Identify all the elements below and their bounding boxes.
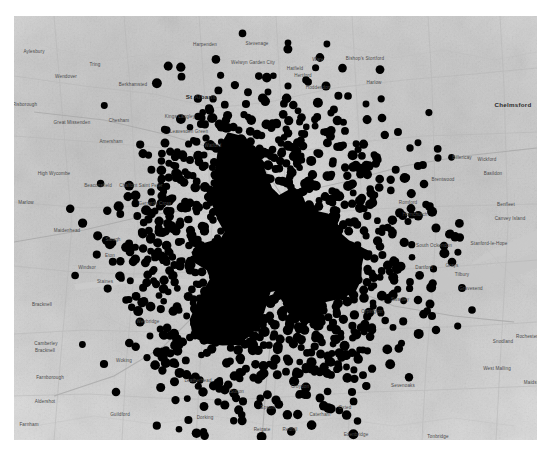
map-label-oxted: Oxted [339,405,352,410]
map-label-maidenhead: Maidenhead [54,228,81,233]
map-label-tonbridge: Tonbridge [427,434,448,439]
map-label-kings-langley: Kings Langley [165,114,195,119]
map-label-maidstone: Maidstone [524,380,537,385]
map-label-windsor: Windsor [78,265,96,270]
map-label-caterham: Caterham [309,412,330,417]
map-label-woking: Woking [116,358,132,363]
map-label-camberley: Camberley [34,341,57,346]
map-label-eton: Eton [105,253,115,258]
map-label-watford: Watford [205,143,222,148]
map-label-romford: Romford [399,200,417,205]
map-label-gerrards-cross: Gerrards Cross [138,201,171,206]
map-label-harlow: Harlow [366,80,381,85]
map-label-redhill: Redhill [283,427,298,432]
map-label-welwyn-garden-city: Welwyn Garden City [231,60,275,65]
map-label-chalfont-saint-peter: Chalfont Saint Peter [119,183,163,188]
map-label-edenbridge: Edenbridge [344,432,369,437]
map-label-hertford: Hertford [294,73,312,78]
map-label-slough: Slough [105,237,120,242]
map-label-leatherhead: Leatherhead [184,378,211,383]
map-label-tilbury: Tilbury [455,272,469,277]
map-label-croydon: Croydon [291,384,309,389]
map-label-hatfield: Hatfield [287,66,304,71]
map-label-snodland: Snodland [493,339,513,344]
map-label-epsom: Epsom [261,405,276,410]
map-label-sutton: Sutton [230,389,244,394]
map-label-bishop-s-stortford: Bishop's Stortford [346,56,384,61]
map-label-sevenoaks: Sevenoaks [391,383,415,388]
map-label-orpington: Orpington [361,309,382,314]
map-label-reigate: Reigate [254,427,271,432]
map-label-leavesden-green: Leavesden Green [170,129,208,134]
map-label-ware: Ware [312,57,323,62]
map-label-bracknell: Bracknell [32,302,52,307]
map-label-brentwood: Brentwood [431,177,454,182]
map-label-south-ockendon: South Ockendon [416,243,452,248]
map-label-st-albans: St Albans [186,94,217,99]
map-label-gravesend: Gravesend [459,286,483,291]
map-label-harpenden: Harpenden [193,42,217,47]
map-label-chesham: Chesham [109,118,130,123]
map-label-marlow: Marlow [18,200,34,205]
map-label-princes-risborough: Princes Risborough [14,102,37,107]
map-label-amersham: Amersham [99,139,122,144]
map-label-wickford: Wickford [478,157,497,162]
map-label-west-malling: West Malling [483,366,511,371]
map-label-farnham: Farnham [19,422,38,427]
map-label-dartford: Dartford [415,265,433,270]
map-label-swanley: Swanley [391,297,409,302]
map-label-benfleet: Benfleet [497,202,515,207]
map-label-staines: Staines [97,279,113,284]
map-label-hoddesdon: Hoddesdon [306,85,331,90]
map-label-tring: Tring [90,62,101,67]
map-label-dorking: Dorking [197,415,214,420]
map-label-hornchurch: Hornchurch [403,212,428,217]
map-label-billericay: Billericay [452,155,472,160]
map-label-grays: Grays [446,263,459,268]
map-label-basildon: Basildon [484,171,503,176]
map-label-high-wycombe: High Wycombe [38,171,71,176]
map-label-farnborough: Farnborough [36,375,64,380]
map-label-bracknell: Bracknell [35,348,55,353]
map-label-stevenage: Stevenage [245,41,268,46]
map-label-aldershot: Aldershot [35,399,56,404]
map-label-berkhamsted: Berkhamsted [119,82,147,87]
map-label-great-missenden: Great Missenden [54,120,91,125]
map-label-weybridge: Weybridge [137,319,160,324]
map-label-stanford-le-hope: Stanford-le-Hope [471,241,508,246]
map-label-canvey-island: Canvey Island [495,216,526,221]
map-label-chelmsford: Chelmsford [495,102,532,107]
figure-canvas: AylesburyTringWendoverBerkhamstedHarpend… [0,0,551,468]
map-label-rochester: Rochester [516,334,537,339]
map-label-beaconsfield: Beaconsfield [84,183,112,188]
map-label-aylesbury: Aylesbury [23,49,44,54]
map-label-guildford: Guildford [110,412,130,417]
map-label-wendover: Wendover [55,74,77,79]
scatter-map-panel[interactable]: AylesburyTringWendoverBerkhamstedHarpend… [14,16,537,440]
scatter-points-layer [14,16,537,440]
